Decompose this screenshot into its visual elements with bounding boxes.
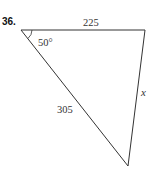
side-top-label: 225 xyxy=(83,17,99,28)
angle-arc xyxy=(28,30,32,38)
side-right-label: x xyxy=(140,86,146,98)
problem-number: 36. xyxy=(2,16,16,27)
angle-label: 50° xyxy=(38,37,53,48)
triangle-diagram: 36. 225 50° 305 x xyxy=(0,0,159,173)
triangle xyxy=(21,30,145,166)
side-left-label: 305 xyxy=(57,104,73,115)
